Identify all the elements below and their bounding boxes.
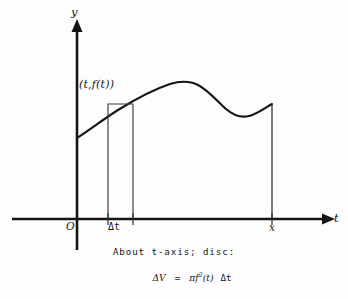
curve-point-label: (t,f(t)) bbox=[79, 79, 114, 90]
formula-equals: = bbox=[175, 272, 181, 283]
formula-argument: (t) bbox=[203, 272, 214, 283]
caption-text: About t-axis; disc: bbox=[0, 246, 348, 257]
formula-delta-t: Δt bbox=[221, 272, 232, 283]
origin-label: O bbox=[66, 221, 75, 232]
delta-t-label: Δt bbox=[108, 222, 120, 232]
disc-rectangle bbox=[108, 104, 133, 219]
y-axis-arrowhead bbox=[72, 19, 83, 32]
formula-delta-v: ΔV bbox=[152, 272, 165, 283]
disc-method-figure: y t O (t,f(t)) Δt x About t-axis; disc: … bbox=[0, 0, 348, 299]
formula-expression: ΔV=πf2(t)Δt bbox=[152, 271, 231, 283]
t-axis-label: t bbox=[334, 213, 339, 225]
x-tick-label: x bbox=[269, 222, 275, 233]
formula-row: ΔV=πf2(t)Δt bbox=[0, 271, 348, 283]
y-axis-label: y bbox=[71, 7, 78, 19]
